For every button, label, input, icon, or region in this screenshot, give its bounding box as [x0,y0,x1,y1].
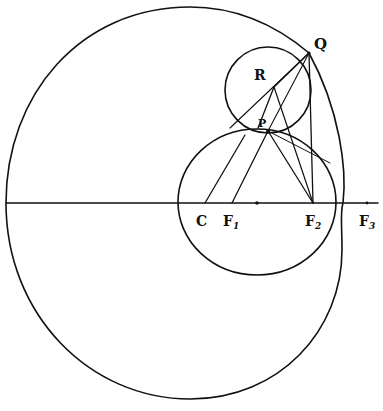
point-P-dot [266,129,270,133]
label-F3: F3 [359,213,375,231]
label-F1: F1 [223,213,239,231]
label-F2: F2 [305,213,321,231]
point-Q-dot [307,51,310,54]
label-R: R [254,67,266,83]
line-Q-P [268,53,309,131]
label-C: C [196,213,207,229]
point-M-dot [255,201,259,205]
line-F1-P [232,131,268,203]
line-C-upper [205,135,245,203]
label-P: P [258,117,266,130]
line-Q-left [230,53,309,128]
line-Q-F2 [309,53,313,203]
point-F3-dot [366,202,369,205]
line-P-F2 [268,131,313,203]
geometry-figure: Q R P C F1 F2 F3 [0,0,383,411]
label-Q: Q [314,35,327,53]
diagram: Q R P C F1 F2 F3 [0,0,383,411]
